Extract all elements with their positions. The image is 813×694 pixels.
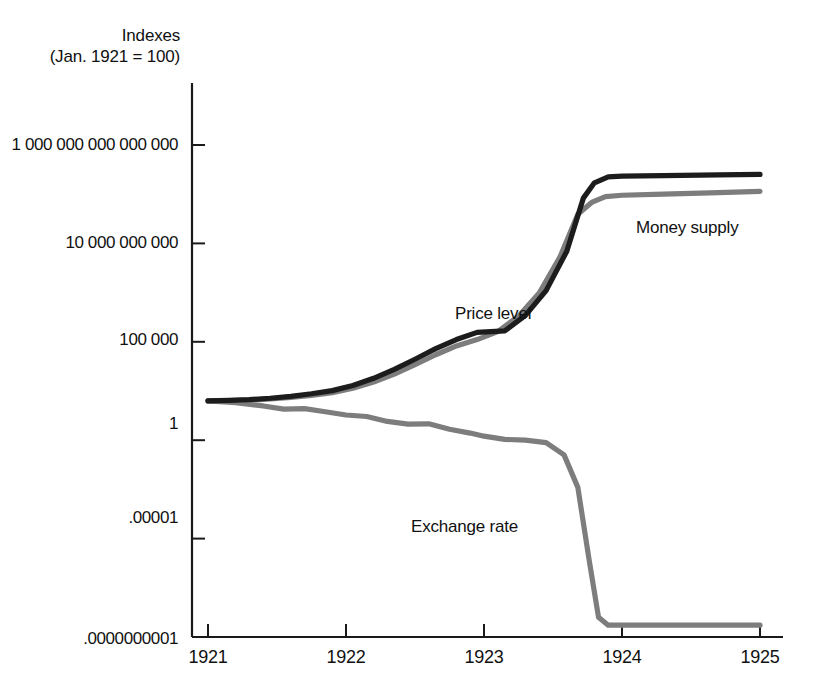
- plot-area: [0, 0, 813, 694]
- hyperinflation-chart-figure: Indexes (Jan. 1921 = 100) 1 000 000 000 …: [0, 0, 813, 694]
- series-label-exchange-rate: Exchange rate: [411, 517, 518, 537]
- series-label-price-level: Price level: [455, 304, 531, 324]
- axis-lines: [192, 83, 783, 637]
- series-label-money-supply: Money supply: [636, 218, 739, 238]
- series-lines: [208, 174, 760, 625]
